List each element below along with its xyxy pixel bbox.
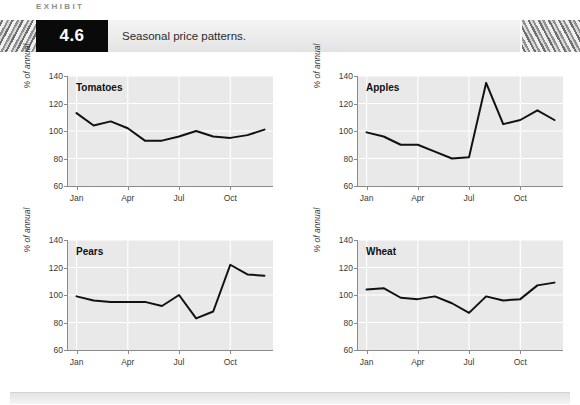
data-series-line bbox=[367, 283, 555, 313]
y-axis-tick-mark bbox=[64, 350, 68, 351]
y-axis-label: % of annual bbox=[22, 26, 32, 106]
x-axis-tick-label: Apr bbox=[121, 357, 134, 367]
x-axis-tick-mark bbox=[367, 186, 368, 190]
y-axis-tick-mark bbox=[354, 350, 358, 351]
y-axis-tick-label: 100 bbox=[49, 290, 63, 300]
y-axis-tick-label: 120 bbox=[49, 263, 63, 273]
y-axis-label: % of annual bbox=[312, 190, 322, 270]
y-axis-tick-label: 120 bbox=[49, 99, 63, 109]
y-axis-tick-label: 60 bbox=[54, 345, 63, 355]
x-axis-tick-mark bbox=[77, 186, 78, 190]
chart-panel-wheat: % of annual1401201008060JanAprJulOctWhea… bbox=[290, 226, 580, 391]
y-axis-tick-mark bbox=[354, 159, 358, 160]
x-axis-tick-label: Oct bbox=[514, 357, 527, 367]
y-axis-tick-mark bbox=[64, 295, 68, 296]
y-axis-label: % of annual bbox=[22, 190, 32, 270]
x-axis-tick-mark bbox=[367, 350, 368, 354]
x-axis-tick-mark bbox=[418, 186, 419, 190]
x-axis-tick-label: Oct bbox=[224, 193, 237, 203]
x-axis-tick-label: Jan bbox=[70, 357, 84, 367]
x-axis-tick-mark bbox=[469, 186, 470, 190]
x-axis-tick-label: Jul bbox=[174, 357, 185, 367]
y-axis-tick-mark bbox=[354, 131, 358, 132]
y-axis-tick-label: 80 bbox=[344, 154, 353, 164]
x-axis-tick-mark bbox=[77, 350, 78, 354]
x-axis-tick-label: Jul bbox=[464, 193, 475, 203]
y-axis-tick-mark bbox=[64, 323, 68, 324]
y-axis-tick-mark bbox=[64, 159, 68, 160]
x-axis-tick-label: Jan bbox=[70, 193, 84, 203]
data-series-line bbox=[77, 265, 265, 319]
y-axis-tick-label: 140 bbox=[339, 71, 353, 81]
y-axis-tick-label: 80 bbox=[54, 318, 63, 328]
y-axis-tick-label: 80 bbox=[54, 154, 63, 164]
y-axis-tick-mark bbox=[354, 323, 358, 324]
chart-series-title: Apples bbox=[366, 82, 399, 93]
y-axis-tick-label: 140 bbox=[339, 235, 353, 245]
exhibit-number-label: 4.6 bbox=[36, 20, 108, 52]
x-axis-line bbox=[67, 186, 273, 187]
plot-area: 1401201008060JanAprJulOctTomatoes bbox=[68, 76, 273, 186]
y-axis-tick-mark bbox=[354, 104, 358, 105]
y-axis-tick-label: 60 bbox=[344, 181, 353, 191]
data-series-line bbox=[367, 83, 555, 159]
y-axis-tick-mark bbox=[64, 104, 68, 105]
exhibit-kicker-label: EXHIBIT bbox=[36, 2, 84, 11]
y-axis-tick-label: 100 bbox=[339, 290, 353, 300]
x-axis-tick-mark bbox=[128, 186, 129, 190]
x-axis-tick-label: Apr bbox=[121, 193, 134, 203]
x-axis-tick-mark bbox=[520, 350, 521, 354]
footer-band bbox=[10, 392, 570, 404]
exhibit-header-bar: 4.6 Seasonal price patterns. bbox=[0, 20, 580, 52]
y-axis-tick-label: 120 bbox=[339, 263, 353, 273]
x-axis-tick-mark bbox=[179, 186, 180, 190]
y-axis-tick-mark bbox=[64, 268, 68, 269]
y-axis-tick-mark bbox=[64, 186, 68, 187]
decorative-stripes-right bbox=[522, 20, 580, 52]
y-axis-tick-label: 100 bbox=[339, 126, 353, 136]
y-axis-tick-label: 120 bbox=[339, 99, 353, 109]
x-axis-tick-mark bbox=[179, 350, 180, 354]
chart-panel-tomatoes: % of annual1401201008060JanAprJulOctToma… bbox=[0, 62, 290, 227]
x-axis-tick-mark bbox=[230, 186, 231, 190]
y-axis-tick-label: 140 bbox=[49, 235, 63, 245]
y-axis-tick-label: 60 bbox=[344, 345, 353, 355]
y-axis-tick-label: 140 bbox=[49, 71, 63, 81]
x-axis-line bbox=[67, 350, 273, 351]
y-axis-tick-mark bbox=[354, 76, 358, 77]
y-axis-tick-mark bbox=[354, 186, 358, 187]
y-axis-tick-label: 80 bbox=[344, 318, 353, 328]
plot-area: 1401201008060JanAprJulOctWheat bbox=[358, 240, 563, 350]
chart-series-title: Pears bbox=[76, 246, 103, 257]
data-series-line bbox=[77, 113, 265, 141]
plot-area: 1401201008060JanAprJulOctApples bbox=[358, 76, 563, 186]
x-axis-tick-label: Jul bbox=[174, 193, 185, 203]
exhibit-header: EXHIBIT 4.6 Seasonal price patterns. bbox=[0, 0, 580, 58]
plot-area: 1401201008060JanAprJulOctPears bbox=[68, 240, 273, 350]
x-axis-tick-mark bbox=[230, 350, 231, 354]
y-axis-tick-mark bbox=[354, 268, 358, 269]
y-axis-label: % of annual bbox=[312, 26, 322, 106]
x-axis-tick-label: Jul bbox=[464, 357, 475, 367]
x-axis-tick-label: Apr bbox=[411, 357, 424, 367]
exhibit-number-box: 4.6 bbox=[36, 20, 108, 52]
x-axis-tick-label: Apr bbox=[411, 193, 424, 203]
x-axis-line bbox=[357, 350, 563, 351]
chart-panel-apples: % of annual1401201008060JanAprJulOctAppl… bbox=[290, 62, 580, 227]
x-axis-tick-label: Oct bbox=[224, 357, 237, 367]
x-axis-tick-mark bbox=[469, 350, 470, 354]
y-axis-tick-mark bbox=[354, 295, 358, 296]
x-axis-line bbox=[357, 186, 563, 187]
chart-grid: % of annual1401201008060JanAprJulOctToma… bbox=[0, 58, 580, 388]
y-axis-tick-mark bbox=[354, 240, 358, 241]
y-axis-tick-label: 60 bbox=[54, 181, 63, 191]
x-axis-tick-label: Jan bbox=[360, 193, 374, 203]
chart-series-title: Tomatoes bbox=[76, 82, 123, 93]
exhibit-title-text: Seasonal price patterns. bbox=[122, 20, 246, 52]
x-axis-tick-label: Jan bbox=[360, 357, 374, 367]
chart-panel-pears: % of annual1401201008060JanAprJulOctPear… bbox=[0, 226, 290, 391]
x-axis-tick-mark bbox=[418, 350, 419, 354]
y-axis-tick-label: 100 bbox=[49, 126, 63, 136]
x-axis-tick-label: Oct bbox=[514, 193, 527, 203]
y-axis-tick-mark bbox=[64, 76, 68, 77]
